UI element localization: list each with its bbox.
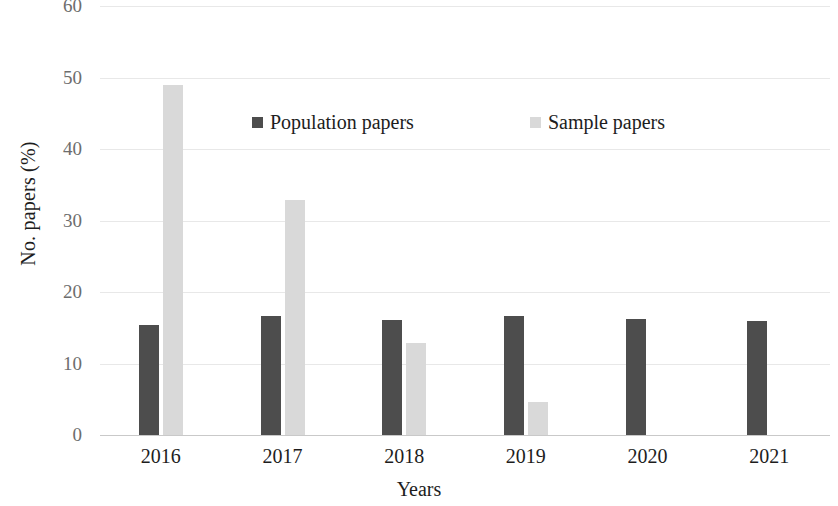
y-axis-tick-label: 20 bbox=[38, 282, 82, 301]
bar bbox=[528, 402, 548, 435]
y-axis-tick-label: 50 bbox=[38, 68, 82, 87]
x-axis-tick-label: 2016 bbox=[101, 446, 221, 466]
legend-entry-sample-papers: Sample papers bbox=[530, 112, 665, 132]
plot-area bbox=[100, 6, 830, 435]
gridline bbox=[100, 364, 830, 365]
bar bbox=[406, 343, 426, 435]
y-axis-tick-label: 30 bbox=[38, 211, 82, 230]
bar-chart: No. papers (%) 0102030405060 Population … bbox=[0, 0, 838, 506]
legend-swatch-icon bbox=[530, 117, 541, 128]
bar bbox=[747, 321, 767, 435]
legend-entry-population-papers: Population papers bbox=[252, 112, 414, 132]
bar bbox=[285, 200, 305, 435]
bar bbox=[261, 316, 281, 435]
bar bbox=[139, 325, 159, 435]
gridline bbox=[100, 6, 830, 7]
x-axis-line bbox=[100, 435, 830, 436]
x-axis-tick-label: 2021 bbox=[709, 446, 829, 466]
bar bbox=[382, 320, 402, 435]
y-axis-title: No. papers (%) bbox=[17, 114, 40, 294]
y-axis-tick-label: 10 bbox=[38, 354, 82, 373]
gridline bbox=[100, 149, 830, 150]
chart-legend: Population papers Sample papers bbox=[252, 112, 665, 132]
x-axis-tick-label: 2020 bbox=[588, 446, 708, 466]
x-axis-tick-label: 2017 bbox=[223, 446, 343, 466]
y-axis-tick-label: 60 bbox=[38, 0, 82, 15]
x-axis-tick-labels: 201620172018201920202021 bbox=[100, 446, 830, 474]
x-axis-tick-label: 2019 bbox=[466, 446, 586, 466]
gridline bbox=[100, 78, 830, 79]
x-axis-title: Years bbox=[0, 478, 838, 501]
x-axis-tick-label: 2018 bbox=[344, 446, 464, 466]
bar bbox=[504, 316, 524, 435]
legend-label: Population papers bbox=[270, 112, 414, 132]
legend-label: Sample papers bbox=[548, 112, 665, 132]
legend-swatch-icon bbox=[252, 117, 263, 128]
y-axis-tick-label: 40 bbox=[38, 139, 82, 158]
gridline bbox=[100, 221, 830, 222]
y-axis-tick-labels: 0102030405060 bbox=[38, 0, 82, 506]
bar bbox=[163, 85, 183, 435]
y-axis-tick-label: 0 bbox=[38, 425, 82, 444]
gridline bbox=[100, 292, 830, 293]
bar bbox=[626, 319, 646, 435]
